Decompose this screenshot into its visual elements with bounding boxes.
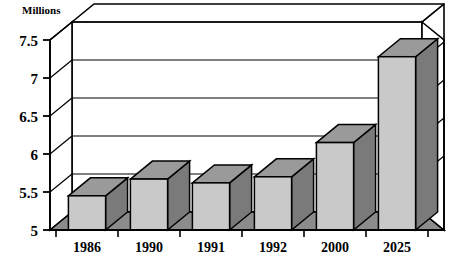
x-axis-label-1991: 1991 [197,240,225,255]
gridline-right-7.5 [422,4,444,22]
bar-front-1991 [192,183,229,230]
y-axis-ticks [43,40,50,230]
x-axis-label-1986: 1986 [73,240,101,255]
chart-svg: Millions [0,0,467,264]
y-axis-title: Millions [22,4,61,16]
y-axis-label-5.5: 5.5 [19,185,38,201]
y-axis-label-7.5: 7.5 [19,33,38,49]
bar-group-1990[interactable] [130,161,189,230]
bar-front-2000 [316,143,353,230]
bar-side-2025 [416,39,438,230]
x-axis-label-1990: 1990 [135,240,163,255]
x-axis-label-1992: 1992 [259,240,287,255]
bar-chart-figure: Millions [0,0,467,264]
bar-group-2025[interactable] [378,39,437,230]
x-axis-labels: 198619901991199220002025 [73,240,411,255]
bar-front-2025 [378,57,415,230]
x-axis-label-2025: 2025 [383,240,411,255]
bar-front-1986 [68,196,105,230]
y-axis-label-5: 5 [31,223,39,239]
bar-group-1991[interactable] [192,165,251,230]
x-axis-label-2000: 2000 [321,240,349,255]
x-axis-ticks [56,230,428,237]
bar-group-1992[interactable] [254,159,313,230]
y-axis-label-7: 7 [31,71,39,87]
bar-front-1990 [130,179,167,230]
bar-front-1992 [254,177,291,230]
y-axis-label-6.5: 6.5 [19,109,38,125]
bar-group-2000[interactable] [316,125,375,230]
y-axis-label-6: 6 [31,147,39,163]
